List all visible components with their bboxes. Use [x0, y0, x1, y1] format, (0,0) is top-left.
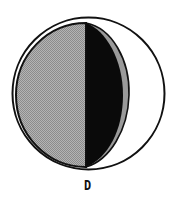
figure-label: D — [13, 177, 162, 193]
lit-half-gray — [16, 23, 86, 167]
moon-phase-diagram — [0, 0, 175, 202]
